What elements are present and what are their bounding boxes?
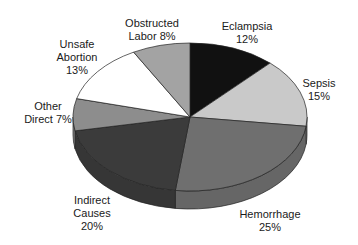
label-hemorrhage: Hemorrhage25%: [239, 208, 300, 234]
slice-hemorrhage: [175, 117, 306, 191]
label-obstructed-labor: ObstructedLabor 8%: [125, 17, 179, 43]
pie-slices: [73, 43, 307, 191]
label-other-direct: OtherDirect 7%: [24, 100, 72, 126]
label-eclampsia: Eclampsia12%: [222, 20, 273, 46]
label-sepsis: Sepsis15%: [302, 77, 335, 103]
label-unsafe-abortion: UnsafeAbortion13%: [57, 38, 98, 77]
label-indirect-causes: IndirectCauses20%: [73, 194, 110, 233]
